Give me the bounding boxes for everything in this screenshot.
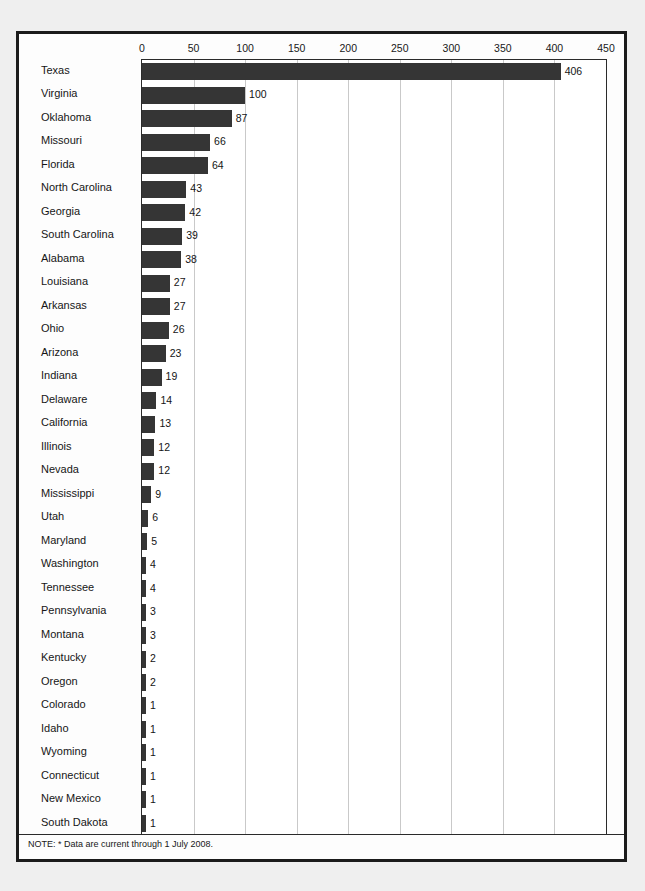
bars-layer: 4061008766644342393827272623191413121296… — [142, 60, 606, 835]
category-label-south-carolina: South Carolina — [25, 223, 139, 246]
category-label-ohio: Ohio — [25, 317, 139, 340]
chart-row: 406 — [142, 60, 606, 83]
bar — [142, 251, 181, 268]
category-label-washington: Washington — [25, 552, 139, 575]
gridline — [606, 60, 607, 835]
chart-row: 1 — [142, 812, 606, 835]
bar — [142, 463, 154, 480]
chart-row: 1 — [142, 741, 606, 764]
bar — [142, 345, 166, 362]
category-label-colorado: Colorado — [25, 693, 139, 716]
x-axis-tick-label: 100 — [236, 40, 254, 56]
x-axis-tick-label: 400 — [546, 40, 564, 56]
bar — [142, 275, 170, 292]
category-label-illinois: Illinois — [25, 435, 139, 458]
category-label-oregon: Oregon — [25, 670, 139, 693]
chart-row: 3 — [142, 600, 606, 623]
category-label-new-mexico: New Mexico — [25, 787, 139, 810]
bar — [142, 157, 208, 174]
category-label-pennsylvania: Pennsylvania — [25, 599, 139, 622]
category-label-idaho: Idaho — [25, 717, 139, 740]
category-label-florida: Florida — [25, 153, 139, 176]
bar-value-label: 5 — [147, 533, 157, 550]
category-label-utah: Utah — [25, 505, 139, 528]
bar — [142, 416, 155, 433]
chart-row: 4 — [142, 577, 606, 600]
bar-value-label: 12 — [154, 439, 170, 456]
bar — [142, 228, 182, 245]
bar — [142, 486, 151, 503]
bar-value-label: 1 — [146, 768, 156, 785]
x-axis-tick-label: 150 — [288, 40, 306, 56]
note-text: NOTE: * Data are current through 1 July … — [28, 839, 213, 849]
category-label-louisiana: Louisiana — [25, 270, 139, 293]
bar-value-label: 1 — [146, 815, 156, 832]
bar — [142, 204, 185, 221]
chart-row: 1 — [142, 694, 606, 717]
bar-value-label: 19 — [162, 368, 178, 385]
chart-row: 100 — [142, 83, 606, 106]
chart-row: 6 — [142, 506, 606, 529]
bar-value-label: 3 — [146, 627, 156, 644]
chart-row: 3 — [142, 624, 606, 647]
category-label-arizona: Arizona — [25, 341, 139, 364]
category-label-nevada: Nevada — [25, 458, 139, 481]
bar — [142, 392, 156, 409]
figure-inner: 050100150200250300350400450 TexasVirgini… — [19, 34, 624, 859]
bar-value-label: 27 — [170, 274, 186, 291]
bar — [142, 63, 561, 80]
bar-value-label: 6 — [148, 509, 158, 526]
bar-value-label: 26 — [169, 321, 185, 338]
chart-row: 14 — [142, 389, 606, 412]
bar-value-label: 12 — [154, 462, 170, 479]
chart-row: 5 — [142, 530, 606, 553]
bar-value-label: 1 — [146, 791, 156, 808]
chart-row: 2 — [142, 647, 606, 670]
category-label-indiana: Indiana — [25, 364, 139, 387]
chart-row: 12 — [142, 459, 606, 482]
bar-value-label: 39 — [182, 227, 198, 244]
category-axis-labels: TexasVirginiaOklahomaMissouriFloridaNort… — [25, 59, 139, 836]
bar-value-label: 100 — [245, 86, 267, 103]
chart-row: 64 — [142, 154, 606, 177]
category-label-tennessee: Tennessee — [25, 576, 139, 599]
bar — [142, 439, 154, 456]
x-axis-top: 050100150200250300350400450 — [19, 40, 624, 56]
chart-row: 13 — [142, 412, 606, 435]
bar-value-label: 9 — [151, 486, 161, 503]
bar-value-label: 14 — [156, 392, 172, 409]
figure-frame: 050100150200250300350400450 TexasVirgini… — [16, 31, 627, 862]
bar-value-label: 64 — [208, 157, 224, 174]
plot-area: 4061008766644342393827272623191413121296… — [141, 59, 607, 836]
chart-row: 19 — [142, 365, 606, 388]
x-axis-tick-label: 350 — [494, 40, 512, 56]
bar-value-label: 3 — [146, 603, 156, 620]
x-axis-tick-label: 250 — [391, 40, 409, 56]
bar — [142, 322, 169, 339]
chart-row: 39 — [142, 224, 606, 247]
chart-row: 4 — [142, 553, 606, 576]
chart-row: 2 — [142, 671, 606, 694]
chart-row: 87 — [142, 107, 606, 130]
bar — [142, 87, 245, 104]
category-label-alabama: Alabama — [25, 247, 139, 270]
bar — [142, 110, 232, 127]
chart-row: 1 — [142, 718, 606, 741]
category-label-virginia: Virginia — [25, 82, 139, 105]
category-label-connecticut: Connecticut — [25, 764, 139, 787]
x-axis-tick-label: 50 — [188, 40, 200, 56]
category-label-south-dakota: South Dakota — [25, 811, 139, 834]
category-label-kentucky: Kentucky — [25, 646, 139, 669]
chart-row: 1 — [142, 765, 606, 788]
category-label-delaware: Delaware — [25, 388, 139, 411]
bar-value-label: 1 — [146, 721, 156, 738]
category-label-maryland: Maryland — [25, 529, 139, 552]
category-label-texas: Texas — [25, 59, 139, 82]
chart-row: 26 — [142, 318, 606, 341]
bar-value-label: 42 — [185, 204, 201, 221]
bar — [142, 369, 162, 386]
chart-row: 66 — [142, 130, 606, 153]
category-label-oklahoma: Oklahoma — [25, 106, 139, 129]
category-label-mississippi: Mississippi — [25, 482, 139, 505]
x-axis-tick-label: 300 — [443, 40, 461, 56]
